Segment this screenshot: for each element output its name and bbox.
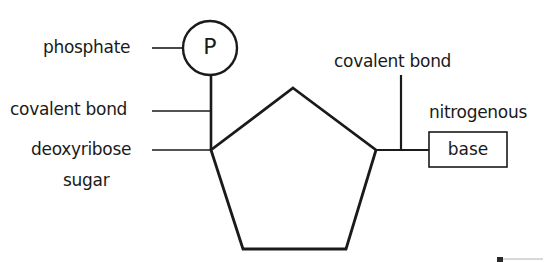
base-label: base bbox=[429, 139, 507, 159]
deoxyribose-pentagon bbox=[211, 88, 376, 249]
sugar-label: sugar bbox=[63, 170, 109, 190]
corner-mark bbox=[497, 257, 503, 262]
covalent-bond-left-label: covalent bond bbox=[10, 99, 127, 119]
phosphate-label: phosphate bbox=[43, 37, 130, 57]
nitrogenous-label: nitrogenous bbox=[429, 102, 527, 122]
deoxyribose-label: deoxyribose bbox=[31, 139, 131, 159]
phosphate-symbol: P bbox=[183, 35, 237, 59]
corner-mark-tail bbox=[503, 258, 543, 260]
covalent-bond-right-label: covalent bond bbox=[334, 51, 451, 71]
